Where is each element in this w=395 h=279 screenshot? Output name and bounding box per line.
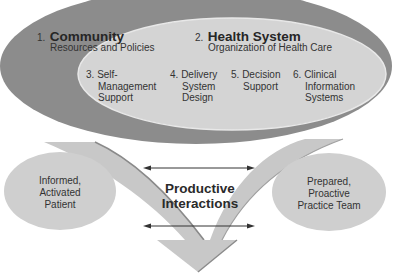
community-subtitle: Resources and Policies bbox=[50, 43, 155, 54]
bottom-double-arrow bbox=[143, 224, 255, 229]
health-system-number: 2. bbox=[195, 32, 203, 43]
component-delivery-system-design: 4. Delivery System Design bbox=[170, 69, 217, 104]
team-label: Prepared, Proactive Practice Team bbox=[279, 176, 379, 211]
community-number: 1. bbox=[37, 32, 45, 43]
arrow-head bbox=[157, 240, 237, 272]
component-decision-support: 5. Decision Support bbox=[231, 69, 280, 92]
top-double-arrow bbox=[143, 166, 255, 171]
patient-label: Informed, Activated Patient bbox=[10, 175, 110, 210]
component-clinical-information-systems: 6. Clinical Information Systems bbox=[293, 69, 355, 104]
productive-interactions-label: Productive Interactions bbox=[150, 182, 250, 212]
component-self-management-support: 3. Self- Management Support bbox=[86, 69, 156, 104]
health-system-subtitle: Organization of Health Care bbox=[208, 43, 332, 54]
